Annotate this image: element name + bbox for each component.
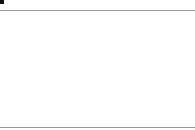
function-graph-figure bbox=[0, 0, 195, 130]
point-c bbox=[0, 0, 4, 4]
